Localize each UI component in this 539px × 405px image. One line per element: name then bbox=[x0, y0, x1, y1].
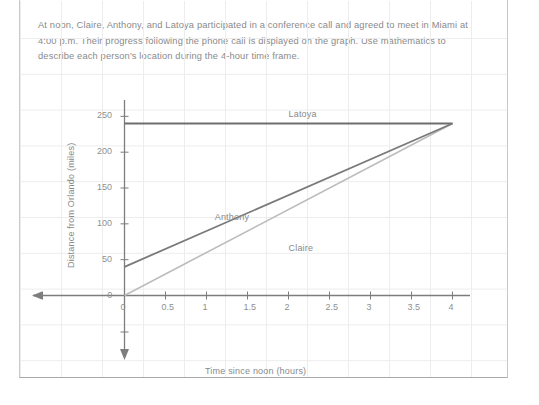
y-tick-label: 100 bbox=[97, 218, 112, 228]
x-tick-label: 2.5 bbox=[326, 302, 339, 312]
series-label-claire: Claire bbox=[289, 243, 314, 253]
x-tick-label: 3 bbox=[367, 302, 372, 312]
y-tick-label: 150 bbox=[97, 182, 112, 192]
x-tick-label: 0 bbox=[121, 302, 126, 312]
x-tick-label: 1 bbox=[203, 302, 208, 312]
x-tick-label: 0.5 bbox=[162, 302, 175, 312]
gridlines bbox=[20, 1, 507, 377]
x-tick-label: 2 bbox=[285, 302, 290, 312]
x-tick-label: 4 bbox=[449, 302, 454, 312]
y-axis-arrow-down bbox=[120, 349, 129, 360]
data-lines bbox=[125, 124, 453, 296]
series-line-claire bbox=[125, 124, 453, 296]
x-axis-title: Time since noon (hours) bbox=[205, 366, 306, 376]
y-tick-label: 200 bbox=[97, 146, 112, 156]
series-label-anthony: Anthony bbox=[215, 212, 249, 222]
y-tick-label: 0 bbox=[107, 290, 112, 300]
x-axis-arrow-left bbox=[32, 292, 42, 300]
screenshot-root: At noon, Claire, Anthony, and Latoya par… bbox=[0, 0, 539, 405]
x-tick-label: 3.5 bbox=[408, 302, 421, 312]
x-tick-label: 1.5 bbox=[244, 302, 257, 312]
graph-figure: Distance from Orlando (miles) Time since… bbox=[0, 0, 539, 405]
y-tick-label: 50 bbox=[102, 254, 112, 264]
y-axis-title: Distance from Orlando (miles) bbox=[66, 143, 76, 268]
series-label-latoya: Latoya bbox=[289, 109, 317, 119]
y-tick-label: 250 bbox=[97, 110, 112, 120]
graph-svg bbox=[0, 0, 539, 405]
